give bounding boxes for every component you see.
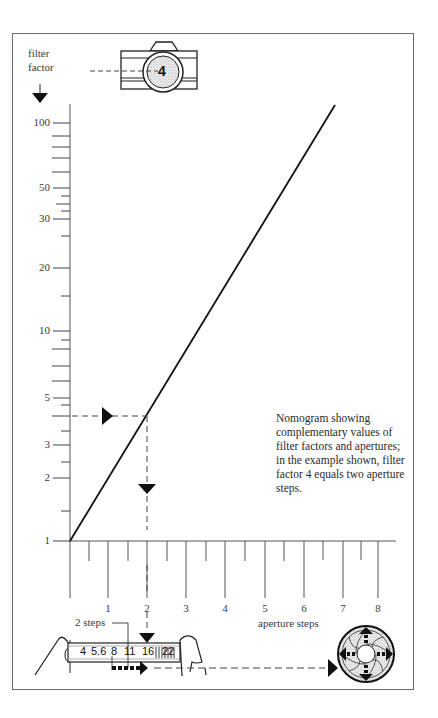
y-tick-5: 5 [26,391,50,403]
y-tick-3: 3 [26,438,50,450]
y-axis-title-line1: filter [28,46,78,60]
x-axis [70,541,396,598]
x-tick-2: 2 [140,602,154,614]
x-tick-5: 5 [258,602,272,614]
example-guides [72,416,147,630]
arrow-down-icon [138,484,156,494]
aperture-value-16: 16 [142,645,154,657]
aperture-value-11: 11 [124,645,135,657]
aperture-value-4: 4 [80,645,86,657]
camera-filter-value: 4 [158,63,166,79]
x-tick-7: 7 [336,602,350,614]
x-tick-3: 3 [179,602,193,614]
y-tick-2: 2 [26,471,50,483]
y-tick-10: 10 [26,324,50,336]
y-tick-50: 50 [26,181,50,193]
arrow-right-icon [102,407,113,425]
y-tick-30: 30 [26,212,50,224]
aperture-value-8: 8 [111,645,117,657]
aperture-value-5-6: 5.6 [91,645,106,657]
y-tick-20: 20 [26,261,50,273]
x-tick-4: 4 [218,602,232,614]
x-tick-8: 8 [371,602,385,614]
x-tick-1: 1 [101,602,115,614]
lens-iris-icon [338,626,394,682]
x-axis-title: aperture steps [258,617,319,629]
y-axis-title-line2: factor [28,60,78,74]
y-axis-arrow-icon [32,84,48,103]
y-tick-100: 100 [26,116,50,128]
x-tick-6: 6 [297,602,311,614]
y-axis-title: filter factor [28,46,78,74]
y-axis [52,104,70,542]
two-steps-label: 2 steps [75,616,105,628]
aperture-value-22: 22 [162,645,174,657]
y-tick-1: 1 [26,534,50,546]
figure-caption: Nomogram showing complementary values of… [276,411,411,495]
